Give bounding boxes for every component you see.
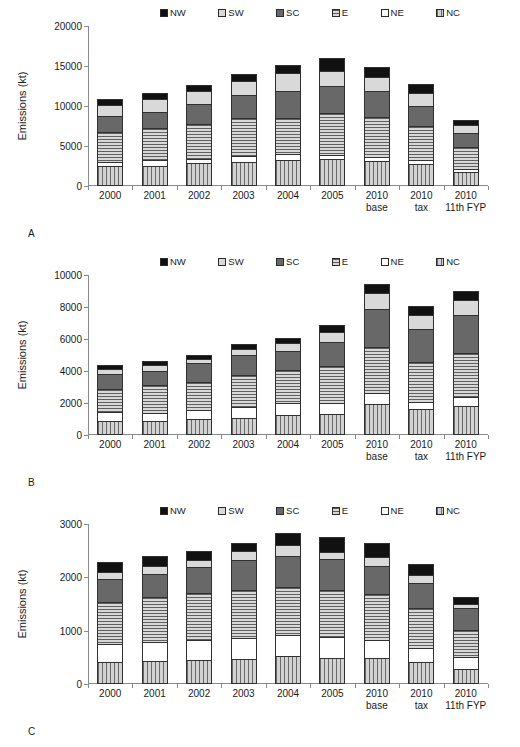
- bar-segment-sw: [319, 552, 345, 559]
- x-label-line1: 2010: [410, 190, 432, 201]
- y-axis-title-b: Emissions (kt): [14, 275, 30, 435]
- bar-segment-ne: [319, 155, 345, 160]
- x-axis-labels-a: 2000200120022003200420052010base2010tax2…: [88, 190, 488, 230]
- y-axis-title-a: Emissions (kt): [14, 26, 30, 186]
- panel-letter-b: B: [28, 477, 35, 488]
- bar-2004: [275, 338, 301, 435]
- x-label-line1: 2003: [232, 439, 254, 450]
- bar-segment-sc: [231, 560, 257, 590]
- bar-2004: [275, 65, 301, 186]
- y-tick-label: 0: [76, 679, 82, 690]
- legend-swatch-nc-icon: [436, 507, 444, 515]
- bar-segment-e: [142, 385, 168, 412]
- bar-segment-nw: [364, 543, 390, 557]
- panel-letter-c: C: [28, 726, 35, 737]
- legend-swatch-ne-icon: [381, 9, 389, 17]
- bar-segment-e: [408, 362, 434, 402]
- legend-item-nc: NC: [436, 506, 460, 516]
- bar-segment-sw: [186, 91, 212, 104]
- bar-segment-nc: [453, 669, 479, 684]
- x-label-line1: 2000: [99, 688, 121, 699]
- legend-label: E: [342, 8, 348, 18]
- bar-segment-nw: [408, 306, 434, 315]
- bar-segment-ne: [186, 410, 212, 419]
- x-axis-labels-b: 2000200120022003200420052010base2010tax2…: [88, 439, 488, 479]
- bar-segment-ne: [142, 642, 168, 661]
- bar-2001: [142, 93, 168, 186]
- x-label-line1: 2003: [232, 190, 254, 201]
- legend-swatch-nw-icon: [160, 507, 168, 515]
- x-axis-label: 2004: [277, 439, 299, 451]
- bar-segment-nc: [408, 662, 434, 684]
- bar-segment-nw: [453, 120, 479, 126]
- bar-segment-sw: [231, 551, 257, 560]
- legend-label: NE: [391, 506, 404, 516]
- x-axis-label: 2010base: [366, 190, 388, 214]
- legend-item-nw: NW: [160, 8, 186, 18]
- x-label-line1: 2000: [99, 439, 121, 450]
- bar-segment-e: [275, 587, 301, 636]
- bar-segment-sw: [186, 560, 212, 567]
- x-label-line1: 2002: [188, 439, 210, 450]
- legend-label: SW: [228, 8, 243, 18]
- bar-segment-nw: [186, 355, 212, 360]
- legend-label: E: [342, 257, 348, 267]
- x-axis-label: 2010base: [366, 439, 388, 463]
- bar-segment-nc: [453, 406, 479, 435]
- y-tick-label: 2000: [60, 572, 82, 583]
- x-axis-label: 2001: [144, 190, 166, 202]
- bar-segment-nw: [408, 564, 434, 576]
- x-axis-label: 2010tax: [410, 190, 432, 214]
- y-tick-mark: [84, 66, 89, 67]
- x-label-line1: 2001: [144, 190, 166, 201]
- y-tick-mark: [84, 26, 89, 27]
- x-tick-mark: [488, 435, 489, 439]
- legend-item-e: E: [332, 257, 348, 267]
- y-tick-mark: [84, 524, 89, 525]
- legend-item-ne: NE: [381, 8, 404, 18]
- bar-segment-e: [408, 608, 434, 649]
- legend-swatch-nw-icon: [160, 258, 168, 266]
- x-label-line1: 2001: [144, 439, 166, 450]
- bar-segment-sw: [364, 293, 390, 309]
- x-axis-label: 201011th FYP: [445, 190, 486, 214]
- bar-segment-e: [186, 124, 212, 160]
- bar-2010-11th-FYP: [453, 291, 479, 435]
- legend-swatch-ne-icon: [381, 258, 389, 266]
- bar-segment-ne: [97, 644, 123, 662]
- bar-segment-nw: [142, 556, 168, 567]
- bar-2000: [97, 365, 123, 435]
- bar-2004: [275, 533, 301, 684]
- bar-segment-sw: [453, 125, 479, 132]
- bar-segment-nc: [408, 409, 434, 435]
- bar-2010-base: [364, 284, 390, 435]
- bar-2010-tax: [408, 564, 434, 685]
- bar-segment-sc: [142, 574, 168, 597]
- bar-segment-nc: [142, 421, 168, 435]
- x-label-line1: 2010: [455, 688, 477, 699]
- bar-segment-nw: [319, 325, 345, 332]
- bar-segment-nw: [275, 533, 301, 546]
- bar-segment-sw: [142, 99, 168, 112]
- panel-letter-a: A: [28, 228, 35, 239]
- bar-2002: [186, 85, 212, 186]
- bar-2003: [231, 543, 257, 684]
- bar-segment-ne: [453, 657, 479, 669]
- bar-segment-e: [231, 118, 257, 156]
- bar-segment-sc: [319, 342, 345, 366]
- bar-segment-ne: [453, 169, 479, 172]
- bar-segment-sc: [408, 106, 434, 126]
- plot-area-c: 0100020003000: [88, 524, 488, 684]
- bar-segment-sc: [364, 91, 390, 117]
- bar-segment-e: [319, 113, 345, 154]
- bar-segment-sc: [319, 86, 345, 113]
- bar-segment-nc: [275, 415, 301, 435]
- x-label-line1: 2001: [144, 688, 166, 699]
- bar-2002: [186, 551, 212, 684]
- legend-swatch-sw-icon: [218, 507, 226, 515]
- legend-panel-b: NWSWSCENENC: [160, 255, 460, 269]
- bar-segment-sw: [453, 604, 479, 608]
- bar-segment-nc: [231, 162, 257, 186]
- x-axis-label: 2003: [232, 439, 254, 451]
- legend-label: SC: [286, 257, 299, 267]
